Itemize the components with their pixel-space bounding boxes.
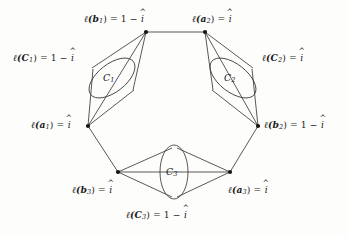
node-b2	[256, 124, 260, 128]
label-C2: ℓ(C2) = i	[262, 52, 304, 64]
ellipse-label-C2: C2	[224, 72, 235, 84]
node-a2	[203, 30, 207, 34]
node-a1	[86, 124, 90, 128]
edge-b3-C3-lower	[118, 172, 172, 197]
label-C3: ℓ(C3) = 1 − i	[126, 209, 188, 221]
node-a3	[228, 170, 232, 174]
label-b3: ℓ(b3) = i	[72, 184, 113, 196]
edge-b1-C1-upper	[92, 32, 146, 68]
ellipse-label-C1: C1	[103, 72, 114, 84]
label-a2: ℓ(a2) = i	[192, 13, 232, 25]
graph-nodes	[86, 30, 260, 174]
label-b1: ℓ(b1) = 1 − i	[84, 13, 145, 25]
label-b2: ℓ(b2) = 1 − i	[264, 119, 325, 131]
ellipse-label-C3: C3	[166, 166, 177, 178]
edge-b2-a3	[230, 126, 258, 172]
edge-a1-b1	[88, 32, 146, 126]
graph-figure: C1 C2 C3 ℓ(b1) = 1 − i ℓ(a2) = i ℓ(C1) =…	[0, 0, 348, 237]
edge-b1-C1-lower	[133, 32, 146, 90]
edge-b3-C3-upper	[118, 148, 172, 172]
edge-a2-C2-upper	[205, 32, 253, 68]
label-a3: ℓ(a3) = i	[228, 184, 268, 196]
label-C1: ℓ(C1) = 1 − i	[13, 52, 75, 64]
edge-a3-C3-upper	[177, 148, 230, 172]
node-b3	[116, 170, 120, 174]
node-b1	[144, 30, 148, 34]
edge-a1-C1-upper	[88, 69, 93, 126]
edge-a3-C3-lower	[177, 172, 230, 197]
edge-b3-a1	[88, 126, 118, 172]
label-a1: ℓ(a1) = i	[31, 119, 71, 131]
